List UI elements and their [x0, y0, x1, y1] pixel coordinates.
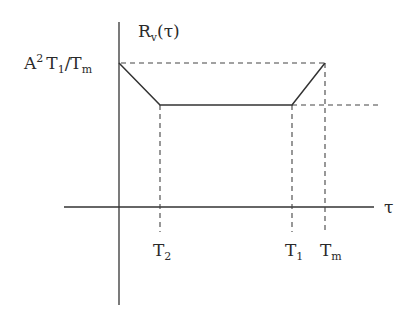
x-axis-label: τ — [384, 197, 393, 217]
rv-curve — [119, 63, 325, 105]
peak-value-label: A2T1/Tm — [23, 52, 93, 76]
tick-label-t1: T1 — [285, 240, 303, 263]
y-axis-label: Rv(τ) — [138, 21, 180, 44]
tick-label-t2: T2 — [153, 240, 171, 263]
tick-label-tm: Tm — [320, 240, 342, 263]
diagram-canvas: Rv(τ) A2T1/Tm τ T2 T1 Tm — [0, 0, 411, 314]
